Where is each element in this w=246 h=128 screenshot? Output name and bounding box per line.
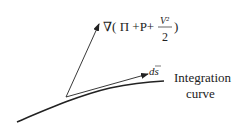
fraction-denominator: 2 <box>162 30 168 44</box>
gradient-label-suffix: ) <box>174 19 178 34</box>
gradient-vector-arrow <box>66 24 99 97</box>
integration-curve <box>17 81 164 122</box>
fraction-numerator: V² <box>160 15 170 26</box>
gradient-label-prefix: ∇( Π +P+ <box>103 19 154 34</box>
ds-vector-arrow <box>66 74 148 97</box>
ds-label-text: ds <box>149 65 159 77</box>
diagram-canvas: ∇( Π +P+ V² 2 ) ds Integration curve <box>0 0 246 128</box>
curve-label-line2: curve <box>186 86 215 101</box>
gradient-label: ∇( Π +P+ V² 2 ) <box>103 15 178 44</box>
ds-label: ds <box>149 65 161 77</box>
curve-label-line1: Integration <box>174 70 232 85</box>
